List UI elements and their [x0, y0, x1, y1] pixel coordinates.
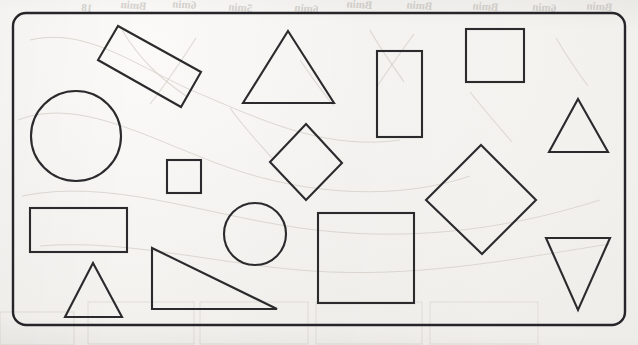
shape-equilateral-triangle-top	[243, 31, 334, 103]
shape-right-triangle	[152, 248, 277, 309]
shape-small-square	[167, 160, 201, 193]
shapes-canvas	[0, 0, 638, 345]
shape-horizontal-rectangle	[30, 208, 127, 252]
shape-rotated-rectangle	[98, 26, 201, 107]
shape-small-circle	[224, 203, 286, 265]
shape-inverted-triangle	[546, 238, 610, 310]
shape-large-diamond	[426, 145, 536, 254]
shape-large-square	[318, 213, 414, 303]
shape-square-top-right	[466, 29, 524, 82]
shape-vertical-rectangle	[377, 51, 422, 137]
worksheet-page: 18 Bmin 6min 5min 6min Bmin Bmin Bmin 6m…	[0, 0, 638, 345]
shape-large-circle	[31, 91, 121, 181]
shape-small-diamond	[270, 124, 342, 200]
shape-small-triangle-right	[549, 99, 608, 152]
shape-small-triangle-bottom-left	[65, 263, 122, 317]
